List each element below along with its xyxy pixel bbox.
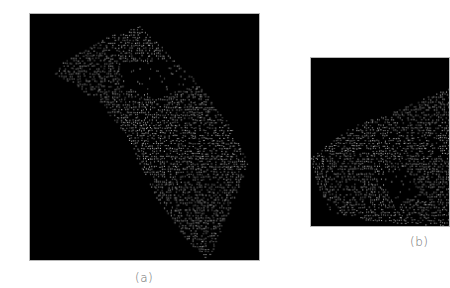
caption-a: (a) [135,271,153,285]
point-cloud-panel-b [310,57,450,227]
point-cloud-panel-a [29,13,260,261]
point-cloud-image-a [30,14,259,260]
point-cloud-image-b [311,58,449,226]
caption-b: (b) [410,235,428,249]
